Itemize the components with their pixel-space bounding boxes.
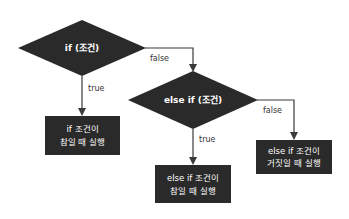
process-box <box>45 116 120 155</box>
edge-if-false: false <box>145 48 197 72</box>
edge-else-if-false: false <box>257 100 298 140</box>
process-if-true: if 조건이 참일 때 실행 <box>45 116 120 155</box>
edge-label-false: false <box>150 54 169 63</box>
process-label-line-1: else if 조건이 <box>268 146 320 156</box>
arrowhead-icon <box>189 64 197 72</box>
edge-if-true: true <box>78 76 104 116</box>
process-label-line-1: else if 조건이 <box>167 173 219 183</box>
arrowhead-icon <box>78 108 86 116</box>
edge-label-true: true <box>199 135 215 144</box>
process-label-line-1: if 조건이 <box>66 124 98 134</box>
process-box <box>155 165 231 203</box>
process-else-if-false: else if 조건이 거짓일 때 실행 <box>256 140 332 174</box>
decision-else-if-label: else if (조건) <box>164 94 222 105</box>
decision-if: if (조건) <box>18 20 146 76</box>
arrowhead-icon <box>290 132 298 140</box>
edge-label-true: true <box>88 84 104 93</box>
decision-if-label: if (조건) <box>65 42 99 53</box>
process-label-line-2: 거짓일 때 실행 <box>267 158 320 168</box>
decision-else-if: else if (조건) <box>128 71 258 129</box>
process-else-if-true: else if 조건이 참일 때 실행 <box>155 165 231 203</box>
process-label-line-2: 참일 때 실행 <box>170 186 215 196</box>
edge-label-false: false <box>263 106 282 115</box>
process-label-line-2: 참일 때 실행 <box>60 137 105 147</box>
edge-else-if-true: true <box>189 129 215 165</box>
arrowhead-icon <box>189 157 197 165</box>
flowchart: true false true false if (조건) else if (조… <box>0 0 349 219</box>
